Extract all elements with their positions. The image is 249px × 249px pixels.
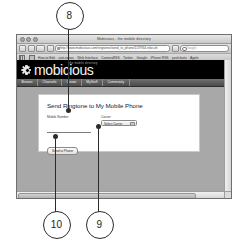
bookmark-item[interactable]: Apple (190, 56, 198, 60)
browser-toolbar: http://www.mobicious.com/ringtones/send_… (17, 44, 231, 54)
nav-item-channels[interactable]: Channels (38, 79, 62, 86)
site-logo-text[interactable]: mobicious (34, 63, 93, 77)
mobicious-flower-logo-icon (21, 64, 32, 75)
send-ringtone-card: Send Ringtone to My Mobile Phone Mobile … (38, 94, 200, 152)
bookmark-item[interactable]: CameraRSS (101, 56, 120, 60)
search-input[interactable]: Google (180, 45, 229, 53)
callout-8-leader-line (68, 26, 69, 110)
bookmark-item[interactable]: Web Interface (77, 56, 97, 60)
mobile-number-input[interactable] (47, 128, 91, 133)
callout-8: 8 (56, 2, 84, 30)
browser-titlebar[interactable]: Mobicious - the mobile directory (17, 35, 231, 44)
carrier-select[interactable]: Select Carrier (101, 120, 137, 126)
carrier-label: Carrier (101, 115, 137, 119)
horizontal-scrollbar[interactable] (17, 191, 231, 198)
site-navigation: Browse Channels Create MyStuff Community (17, 79, 231, 87)
forward-button[interactable] (28, 45, 35, 53)
site-tagline: the mobile directory (69, 62, 98, 65)
bookmark-item[interactable]: How-to Edit (38, 56, 55, 60)
add-bookmark-button[interactable] (47, 45, 54, 53)
address-bar[interactable]: http://www.mobicious.com/ringtones/send_… (55, 45, 170, 53)
bookmark-item[interactable]: yeah-bots (172, 56, 186, 60)
nav-item-browse[interactable]: Browse (17, 79, 38, 86)
site-header: mobicious the mobile directory (17, 60, 231, 79)
bookmark-item[interactable]: iPhone RSS (151, 56, 169, 60)
vertical-scrollbar[interactable] (224, 60, 231, 192)
nav-item-mystuff[interactable]: MyStuff (82, 79, 103, 86)
nav-item-create[interactable]: Create (62, 79, 82, 86)
window-title: Mobicious - the mobile directory (17, 37, 231, 41)
send-to-phone-button[interactable]: Send to Phone (47, 147, 78, 155)
resize-grip[interactable] (224, 191, 231, 198)
bookmark-item[interactable]: anti-sonos (59, 56, 74, 60)
carrier-field-group: Carrier Select Carrier (101, 115, 137, 138)
sidebar-toggle-button[interactable] (36, 45, 45, 53)
bookmark-item[interactable]: Google (136, 56, 147, 60)
form-fields-row: Mobile Number Carrier Select Carrier (47, 115, 199, 138)
reload-icon[interactable] (172, 45, 179, 53)
mobile-number-label: Mobile Number (47, 115, 91, 119)
browser-window: Mobicious - the mobile directory http://… (16, 34, 232, 199)
back-button[interactable] (19, 45, 26, 53)
bookmark-item[interactable]: Twitter (123, 56, 133, 60)
callout-9-leader-line (98, 126, 99, 212)
web-page-viewport: mobicious the mobile directory Browse Ch… (17, 60, 231, 198)
callout-10: 10 (43, 211, 71, 239)
nav-item-community[interactable]: Community (103, 79, 130, 86)
callout-9: 9 (86, 211, 114, 239)
callout-10-leader-line (55, 136, 56, 212)
horizontal-scrollbar-thumb[interactable] (18, 193, 196, 199)
